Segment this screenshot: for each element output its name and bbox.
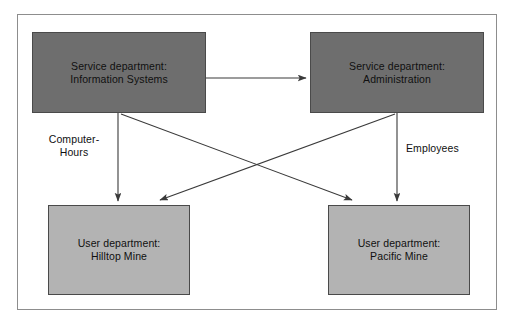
node-information-systems-label: Service department: Information Systems [66, 60, 172, 86]
node-pacific-mine-label: User department: Pacific Mine [354, 237, 445, 263]
node-hilltop-mine[interactable]: User department: Hilltop Mine [48, 205, 190, 295]
node-information-systems[interactable]: Service department: Information Systems [32, 32, 206, 113]
diagram-canvas: Service department: Information Systems … [0, 0, 518, 324]
node-hilltop-mine-label: User department: Hilltop Mine [74, 237, 165, 263]
edge-label-employees: Employees [406, 142, 496, 155]
node-pacific-mine[interactable]: User department: Pacific Mine [328, 205, 470, 295]
edge-label-computer-hours: Computer- Hours [36, 133, 112, 159]
node-administration-label: Service department: Administration [345, 60, 449, 86]
node-administration[interactable]: Service department: Administration [310, 32, 484, 113]
